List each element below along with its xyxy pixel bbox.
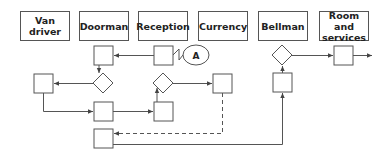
doorman-step-box-2 bbox=[94, 102, 113, 121]
reception-step-box-2 bbox=[154, 102, 173, 121]
currency-step-box bbox=[213, 74, 232, 93]
bellman-decision-diamond bbox=[272, 45, 292, 65]
van-driver-step-box bbox=[34, 74, 53, 93]
arrow-van-driver-to-doorman-2 bbox=[44, 93, 94, 112]
doorman-step-box-1 bbox=[94, 46, 113, 65]
arrow-doorman-3-to-bellman bbox=[113, 93, 283, 145]
doorman-step-box-3 bbox=[94, 129, 113, 148]
bellman-step-box bbox=[273, 73, 292, 92]
doorman-decision-diamond bbox=[93, 73, 113, 93]
room-services-step-box bbox=[334, 46, 353, 65]
zigzag-to-connector-a bbox=[173, 49, 183, 60]
reception-step-box-1 bbox=[154, 46, 173, 65]
reception-decision-diamond bbox=[153, 73, 173, 93]
flow-diagram: A bbox=[0, 0, 392, 159]
connector-a-label: A bbox=[193, 51, 200, 61]
